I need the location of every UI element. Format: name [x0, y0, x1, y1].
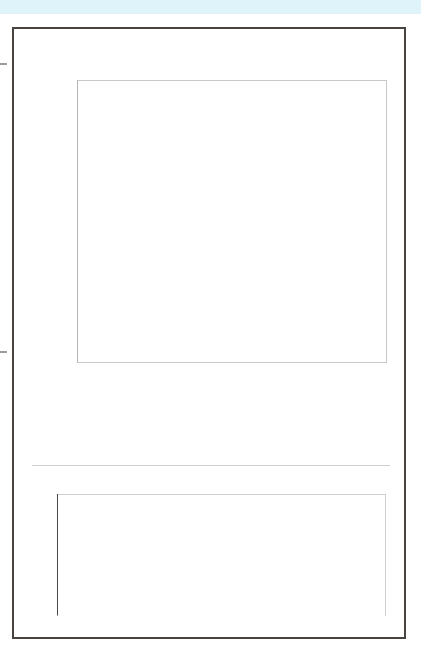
weekly-kilometers-chart — [14, 29, 404, 389]
figure-page — [12, 27, 406, 639]
top-chart-rows — [78, 81, 386, 362]
page-top-accent-strip — [0, 0, 421, 14]
left-margin-tick-upper — [0, 63, 7, 65]
chart-legend — [38, 394, 388, 456]
weekly-load-chart — [30, 481, 392, 633]
top-chart-x-axis — [77, 365, 387, 381]
top-chart-plot-area — [77, 80, 387, 363]
left-margin-tick-lower — [0, 351, 7, 353]
section-divider — [32, 465, 390, 466]
page-top-white-strip — [0, 14, 421, 24]
bottom-chart-plot-area — [58, 494, 386, 616]
